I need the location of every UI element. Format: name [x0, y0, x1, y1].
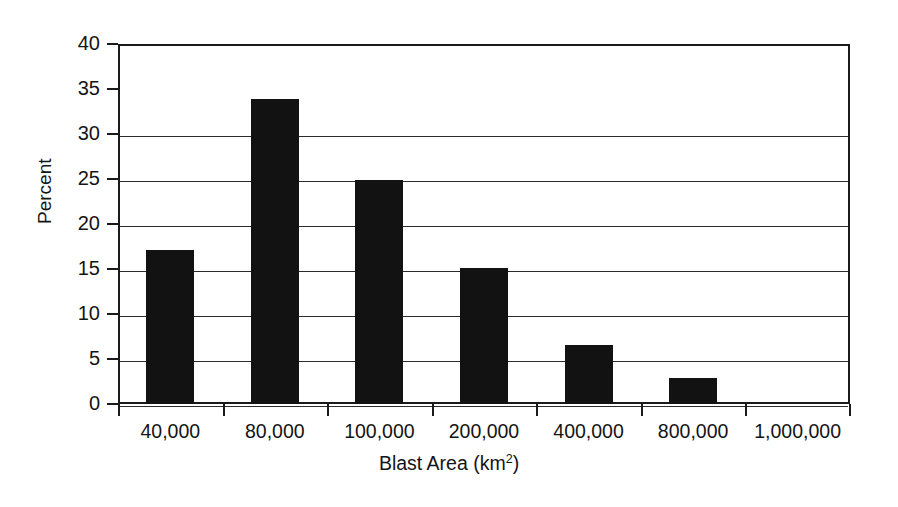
y-tick-label-0: 0: [89, 393, 100, 414]
y-tick-mark-40: [107, 43, 118, 45]
y-tick-mark-5: [107, 358, 118, 360]
x-tick-0: [118, 404, 120, 416]
x-axis-title-base: Blast Area (km: [379, 452, 506, 474]
y-tick-label-40: 40: [78, 33, 100, 54]
x-tick-6: [745, 404, 747, 416]
plot-area: [118, 44, 850, 404]
x-tick-1: [223, 404, 225, 416]
y-tick-label-10: 10: [78, 303, 100, 324]
gridline-20: [120, 271, 848, 272]
x-label-800000: 800,000: [641, 418, 746, 448]
x-axis-title-superscript: 2: [506, 452, 513, 466]
y-tick-mark-30: [107, 133, 118, 135]
y-tick-mark-10: [107, 313, 118, 315]
y-tick-label-15: 15: [78, 258, 100, 279]
y-tick-label-35: 35: [78, 78, 100, 99]
x-tick-3: [432, 404, 434, 416]
y-tick-mark-20: [107, 223, 118, 225]
x-axis-labels: 40,000 80,000 100,000 200,000 400,000 80…: [118, 418, 850, 448]
y-tick-mark-35: [107, 88, 118, 90]
gridline-10: [120, 361, 848, 362]
x-label-200000: 200,000: [432, 418, 537, 448]
y-tick-mark-0: [107, 403, 118, 405]
y-axis-title: Percent: [34, 159, 56, 224]
y-tick-mark-25: [107, 178, 118, 180]
x-tick-4: [536, 404, 538, 416]
x-tick-2: [327, 404, 329, 416]
gridline-30: [120, 181, 848, 182]
gridline-25: [120, 226, 848, 227]
x-axis-title-tail: ): [513, 452, 520, 474]
y-tick-label-25: 25: [78, 168, 100, 189]
x-tick-7: [849, 404, 851, 416]
x-axis-title: Blast Area (km2): [0, 452, 898, 475]
y-tick-mark-15: [107, 268, 118, 270]
y-tick-label-30: 30: [78, 123, 100, 144]
y-tick-label-5: 5: [89, 348, 100, 369]
gridline-15: [120, 316, 848, 317]
x-label-40000: 40,000: [118, 418, 223, 448]
bar-chart-figure: 40 35 30 25 20 15 10 5: [0, 0, 898, 507]
x-label-100000: 100,000: [327, 418, 432, 448]
x-tick-5: [641, 404, 643, 416]
x-label-1000000: 1,000,000: [745, 418, 850, 448]
x-label-80000: 80,000: [223, 418, 328, 448]
y-axis: 40 35 30 25 20 15 10 5: [0, 0, 118, 507]
y-tick-label-20: 20: [78, 213, 100, 234]
x-label-400000: 400,000: [536, 418, 641, 448]
gridline-35: [120, 136, 848, 137]
